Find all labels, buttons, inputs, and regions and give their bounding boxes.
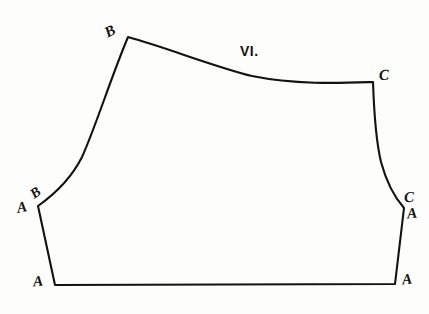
pattern-figure: VI. B C A B C A A A: [0, 0, 429, 314]
vertex-label-c-right-waist: C: [404, 190, 415, 206]
vertex-label-c-top: C: [378, 68, 389, 84]
pattern-outline-path: [38, 37, 404, 285]
vertex-label-a-bottom-left: A: [32, 274, 44, 290]
vertex-label-a-right-waist: A: [406, 206, 418, 222]
pattern-outline-drawing: [0, 0, 429, 314]
plate-number-title: VI.: [240, 44, 259, 58]
vertex-label-a-bottom-right: A: [401, 272, 413, 288]
